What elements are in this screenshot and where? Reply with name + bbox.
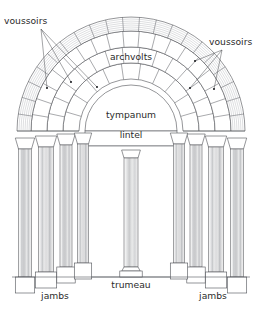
jamb-column-right-1: [205, 136, 226, 288]
label-archvolts: archvolts: [110, 51, 152, 62]
label-jambs-right: jambs: [198, 290, 227, 301]
jamb-column-left-0: [15, 138, 34, 293]
jamb-column-right-0: [227, 138, 246, 293]
label-tympanum: tympanum: [106, 109, 156, 120]
jamb-columns-right: [170, 133, 246, 293]
label-voussoirs-right: voussoirs: [209, 36, 252, 47]
label-lintel: lintel: [120, 129, 143, 140]
label-trumeau: trumeau: [111, 279, 150, 290]
jamb-column-left-2: [57, 134, 75, 283]
jamb-column-left-1: [35, 136, 56, 288]
label-jambs-left: jambs: [40, 290, 69, 301]
tympanum-field: [85, 85, 177, 131]
label-voussoirs-left: voussoirs: [4, 15, 47, 26]
portal-diagram: voussoirs voussoirs archvolts tympanum l…: [0, 0, 262, 315]
jamb-columns-left: [15, 133, 91, 293]
jamb-column-right-2: [187, 134, 205, 283]
